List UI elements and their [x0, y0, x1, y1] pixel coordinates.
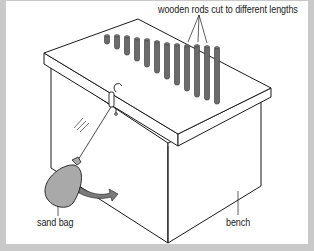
rods-leader-lines — [188, 15, 207, 43]
wooden-rod — [175, 44, 180, 85]
wooden-rod — [155, 41, 160, 73]
wooden-rod — [135, 38, 140, 61]
wooden-rod — [205, 46, 210, 100]
wooden-rod — [215, 47, 220, 104]
wooden-rod — [195, 45, 200, 97]
bench-label: bench — [226, 216, 250, 228]
wooden-rod — [165, 43, 170, 79]
wooden-rod — [185, 45, 190, 91]
sand-bag-label: sand bag — [37, 216, 73, 228]
rods-label: wooden rods cut to different lengths — [158, 3, 298, 15]
wooden-rod — [145, 39, 150, 67]
wooden-rod — [125, 36, 130, 55]
diagram-frame: wooden rods cut to different lengths san… — [6, 1, 308, 244]
bench-experiment-illustration — [6, 1, 308, 244]
